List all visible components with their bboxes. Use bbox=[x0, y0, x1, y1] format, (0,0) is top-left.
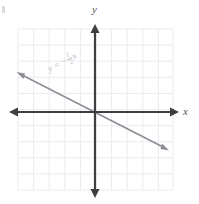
coordinate-plane-figure: x y y = −12x bbox=[0, 0, 199, 204]
x-axis-label: x bbox=[183, 106, 188, 117]
graph-canvas bbox=[0, 0, 199, 204]
y-axis-label: y bbox=[92, 4, 97, 15]
